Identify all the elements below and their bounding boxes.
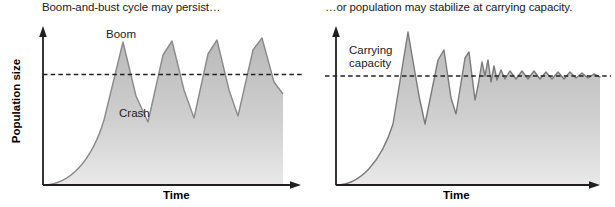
population-area-left: [43, 38, 283, 185]
annotation-crash: Crash: [119, 107, 150, 119]
population-growth-figure: Boom-and-bust cycle may persist…: [0, 0, 615, 207]
annotation-carrying-capacity-line2: capacity: [349, 57, 392, 70]
x-axis-label-left: Time: [163, 189, 190, 201]
logistic-stabilization-plot: [305, 0, 615, 207]
y-axis-label-left: Population size: [10, 51, 22, 151]
x-axis-label-right: Time: [443, 189, 470, 201]
panel-boom-and-bust: Boom-and-bust cycle may persist…: [0, 0, 310, 207]
panel-logistic-stabilization: …or population may stabilize at carrying…: [305, 0, 615, 207]
y-axis-left: [39, 26, 47, 185]
annotation-carrying-capacity-line1: Carrying: [349, 44, 392, 57]
annotation-boom: Boom: [106, 28, 136, 40]
y-axis-right: [332, 26, 340, 185]
annotation-carrying-capacity: Carrying capacity: [349, 44, 392, 70]
boom-and-bust-plot: [0, 0, 310, 207]
